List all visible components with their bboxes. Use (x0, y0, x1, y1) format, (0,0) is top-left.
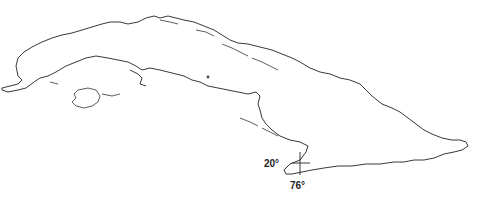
latitude-label: 20° (264, 158, 279, 169)
inland-dot (207, 76, 210, 79)
isla-de-la-juventud (72, 88, 100, 108)
longitude-label: 76° (290, 180, 305, 191)
southern-coast-detail (130, 70, 146, 86)
southern-cays (240, 118, 278, 136)
cuba-outline-map (0, 0, 488, 205)
northern-cays (160, 20, 278, 70)
cuba-main-island (2, 16, 468, 174)
